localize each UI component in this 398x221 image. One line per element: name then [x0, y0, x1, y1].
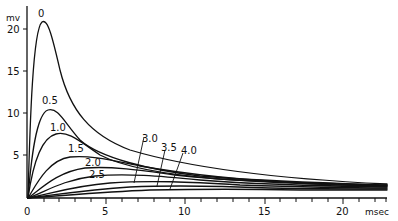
x-ticks [44, 198, 386, 204]
curve-0 [28, 22, 387, 198]
x-tick-label: 20 [336, 206, 349, 217]
x-unit-label: msec [365, 207, 389, 217]
y-tick-label: 10 [7, 108, 20, 119]
curve-label-1.0: 1.0 [50, 122, 66, 133]
curve-label-4.0: 4.0 [181, 145, 197, 156]
x-tick-label: 5 [102, 206, 108, 217]
curve-label-2.0: 2.0 [85, 157, 101, 168]
x-tick-label: 15 [258, 206, 271, 217]
y-tick-label: 20 [7, 24, 20, 35]
chart: mv 20 15 10 5 0 5 10 15 20 msec [0, 0, 398, 221]
curve-4.0 [28, 189, 387, 198]
curve-label-1.5: 1.5 [68, 143, 84, 154]
curve-label-2.5: 2.5 [89, 169, 105, 180]
curve-label-3.0: 3.0 [142, 133, 158, 144]
curve-label-0.5: 0.5 [42, 95, 58, 106]
y-unit-label: mv [6, 13, 21, 23]
x-tick-label: 10 [178, 206, 191, 217]
x-tick-label: 0 [24, 206, 30, 217]
y-tick-label: 5 [13, 150, 19, 161]
curve-label-0: 0 [38, 8, 44, 19]
curve-label-3.5: 3.5 [161, 142, 177, 153]
y-tick-label: 15 [7, 66, 20, 77]
